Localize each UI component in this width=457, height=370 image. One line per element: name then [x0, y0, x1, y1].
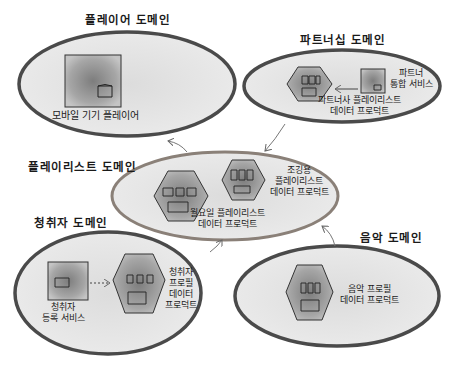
mobile-player-box [65, 55, 121, 107]
arrow-music-to-playlist [322, 226, 335, 246]
music-domain-title: 음악 도메인 [360, 232, 422, 244]
music-domain [235, 246, 439, 346]
partner-playlist-label: 파트너사 플레이리스트 데이터 프로덕트 [318, 95, 401, 117]
partner-integration-label: 파트너 통합 서비스 [390, 68, 433, 90]
listener-profile-label: 청취자 프로필 데이터 프로덕트 [165, 267, 197, 311]
arrow-listener-to-playlist [210, 240, 222, 252]
listener-registration-box [48, 262, 88, 300]
arrow-playlist-to-player [168, 141, 187, 152]
listener-domain-title: 청취자 도메인 [34, 217, 108, 229]
playlist-domain-title: 플레이리스트 도메인 [28, 161, 136, 173]
arrow-partnership-to-playlist [265, 124, 285, 151]
jogging-playlist-label: 조깅용 플레이리스트 데이터 프로덕트 [270, 165, 329, 198]
partnership-domain-title: 파트너십 도메인 [300, 34, 385, 46]
monday-playlist-label: 월요일 플레이리스트 데이터 프로덕트 [190, 208, 265, 230]
mobile-player-label: 모바일 기기 플레이어 [52, 110, 139, 122]
listener-registration-label: 청취자 등록 서비스 [42, 302, 85, 324]
player-domain-title: 플레이어 도메인 [85, 14, 170, 26]
music-profile-label: 음악 프로필 데이터 프로덕트 [340, 284, 399, 306]
